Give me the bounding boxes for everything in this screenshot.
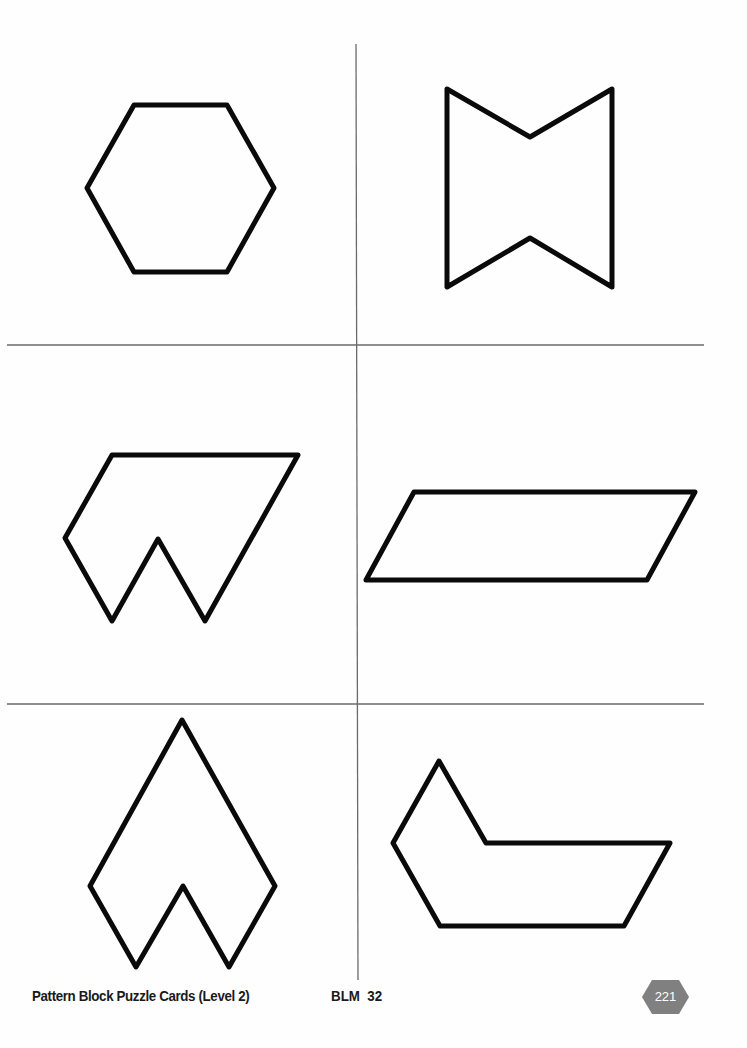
boot-shape-card-6 — [393, 761, 670, 926]
bowtie-shape-card-2 — [447, 89, 612, 287]
hexagon-shape-card-1 — [87, 105, 274, 272]
notched-trapezoid-shape-card-3 — [65, 455, 298, 621]
footer-title: Pattern Block Puzzle Cards (Level 2) — [32, 988, 249, 1004]
page-number-badge: 221 — [641, 979, 690, 1015]
puzzle-card-grid — [0, 0, 747, 1048]
worksheet-page: Pattern Block Puzzle Cards (Level 2) BLM… — [0, 0, 747, 1048]
blm-code: BLM 32 — [331, 988, 382, 1004]
parallelogram-shape-card-4 — [366, 492, 695, 580]
arrowhead-shape-card-5 — [90, 720, 275, 967]
vertical-cut-line — [356, 44, 358, 980]
page-number: 221 — [641, 979, 690, 1015]
